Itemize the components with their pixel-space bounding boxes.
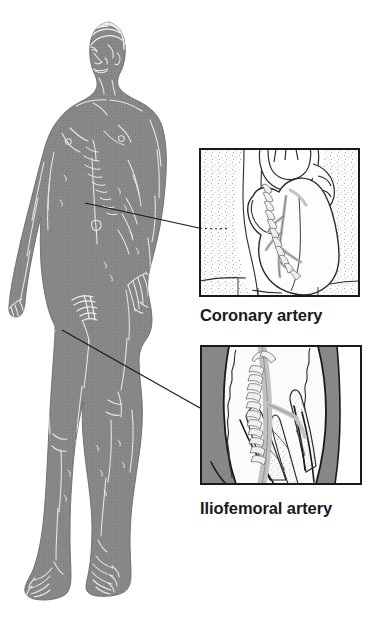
caption-iliofemoral-artery: Iliofemoral artery — [200, 500, 332, 517]
iliofemoral-panel-contents — [201, 346, 361, 484]
iliofemoral-inset-panel[interactable] — [0, 0, 382, 627]
caption-coronary-artery: Coronary artery — [200, 307, 322, 324]
illustration-root: Coronary artery Iliofemoral artery — [0, 0, 382, 627]
